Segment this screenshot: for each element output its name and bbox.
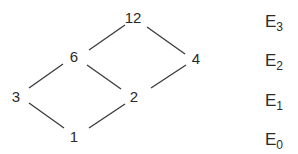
node-4: 4 [192, 50, 200, 67]
level-subscript: 3 [276, 20, 283, 34]
edge-4-2 [151, 65, 186, 88]
level-base: E [265, 130, 276, 149]
edge-3-6 [29, 64, 63, 88]
level-label-e3: E3 [265, 12, 283, 34]
levels-group: E3E2E1E0 [265, 12, 283, 152]
level-subscript: 2 [276, 59, 283, 73]
level-label-e1: E1 [265, 91, 283, 113]
level-subscript: 0 [276, 138, 283, 152]
level-base: E [265, 51, 276, 70]
edge-6-2 [87, 65, 121, 89]
node-3: 3 [12, 88, 20, 105]
level-label-e2: E2 [265, 51, 283, 73]
hasse-diagram: 1264321 E3E2E1E0 [0, 0, 298, 154]
nodes-group: 1264321 [12, 9, 200, 145]
node-12: 12 [125, 9, 142, 26]
edge-3-1 [29, 103, 64, 128]
edges-group [29, 25, 186, 128]
node-1: 1 [70, 128, 78, 145]
edge-12-4 [147, 27, 185, 54]
level-base: E [265, 12, 276, 31]
node-2: 2 [130, 88, 138, 105]
level-base: E [265, 91, 276, 110]
edge-1-2 [89, 104, 125, 128]
node-6: 6 [70, 48, 78, 65]
level-label-e0: E0 [265, 130, 283, 152]
level-subscript: 1 [276, 99, 283, 113]
edge-6-12 [89, 25, 125, 50]
